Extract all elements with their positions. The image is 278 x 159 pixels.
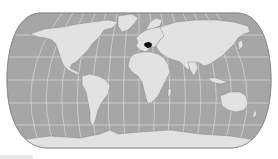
footer-bar bbox=[0, 155, 33, 159]
world-map bbox=[0, 0, 278, 159]
